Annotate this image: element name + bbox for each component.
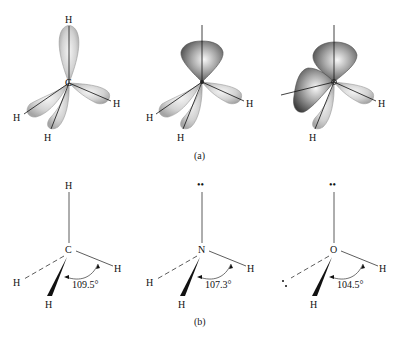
caption-a: (a) — [194, 150, 205, 162]
ammonia-structure: •• N H H H 107.3° — [146, 179, 254, 310]
diagram-canvas: H H H H C H H H (a) — [0, 0, 404, 337]
methane-h-left: H — [13, 277, 20, 288]
methane-center: C — [65, 244, 72, 255]
water-angle: 104.5° — [337, 279, 364, 290]
water-orbital-model: H H — [281, 25, 385, 143]
water-orbital-h-bottom: H — [309, 132, 316, 143]
water-h-right: H — [379, 263, 386, 274]
water-structure: •• O H H 104.5° — [282, 179, 386, 310]
methane-orbital-h-top: H — [65, 14, 72, 25]
ammonia-lone-pair-top: •• — [197, 179, 204, 190]
methane-orbital-h-right: H — [113, 98, 120, 109]
water-lone-pair-top: •• — [329, 179, 336, 190]
methane-angle: 109.5° — [72, 279, 99, 290]
ammonia-center: N — [198, 244, 205, 255]
ammonia-h-right: H — [247, 263, 254, 274]
caption-b: (b) — [194, 316, 206, 328]
ammonia-orbital-model: H H H — [146, 25, 253, 143]
ammonia-orbital-h-left: H — [146, 112, 153, 123]
water-lone-pair-left — [282, 280, 287, 287]
methane-h-top: H — [65, 180, 72, 191]
water-h-bottom: H — [310, 299, 317, 310]
methane-h-bottom: H — [45, 299, 52, 310]
methane-structure: H C H H H 109.5° — [13, 180, 121, 310]
methane-orbital-h-left: H — [13, 112, 20, 123]
ammonia-h-left: H — [146, 277, 153, 288]
water-orbital-h-right: H — [378, 98, 385, 109]
methane-orbital-h-bottom: H — [44, 132, 51, 143]
ammonia-orbital-h-right: H — [246, 98, 253, 109]
ammonia-angle: 107.3° — [205, 279, 232, 290]
ammonia-h-bottom: H — [178, 299, 185, 310]
methane-h-right: H — [114, 263, 121, 274]
water-center: O — [330, 244, 337, 255]
methane-orbital-model: H H H H C — [13, 14, 120, 143]
ammonia-orbital-h-bottom: H — [177, 132, 184, 143]
methane-orbital-center: C — [65, 77, 72, 88]
